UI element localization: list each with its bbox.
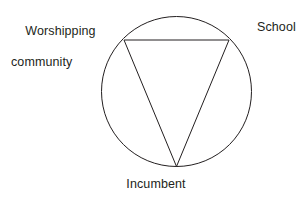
label-worshipping-community-line1: Worshipping — [25, 24, 95, 38]
label-worshipping-community: Worshipping community — [11, 8, 96, 101]
label-worshipping-community-line2: community — [11, 55, 96, 71]
diagram-canvas: Worshipping community School Incumbent — [0, 0, 306, 199]
outer-circle — [102, 17, 252, 167]
inverted-triangle — [124, 40, 229, 167]
label-school: School — [257, 20, 296, 36]
label-incumbent: Incumbent — [0, 177, 306, 193]
